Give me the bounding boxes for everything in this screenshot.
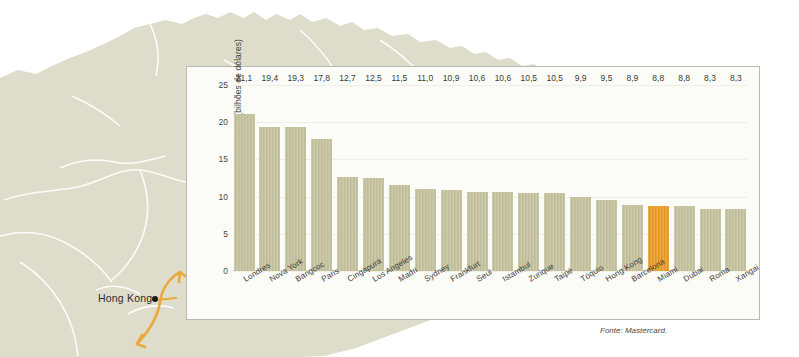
bar-slot: 10,5 bbox=[518, 85, 540, 271]
bar-slot: 11,0 bbox=[414, 85, 436, 271]
x-label-slot: Tóquio bbox=[570, 273, 592, 319]
bar-los-angeles[interactable]: 12,5 bbox=[363, 178, 384, 271]
x-label-slot: Frankfurt bbox=[440, 273, 462, 319]
bar-slot: 12,7 bbox=[337, 85, 359, 271]
bar-frankfurt[interactable]: 10,9 bbox=[441, 190, 462, 271]
plot-area: 25 20 15 10 5 0 21,119,419,317,812,712,5… bbox=[233, 85, 747, 271]
bar-value-label: 8,8 bbox=[678, 73, 690, 83]
bar-value-label: 17,8 bbox=[313, 73, 330, 83]
x-label-slot: Madri bbox=[388, 273, 410, 319]
bar-value-label: 11,0 bbox=[417, 73, 433, 83]
bar-bangcoc[interactable]: 19,3 bbox=[285, 127, 306, 271]
plot-wrapper: Gastos dos visitantes (bilhões de dólare… bbox=[187, 67, 761, 321]
bar-value-label: 10,6 bbox=[469, 73, 486, 83]
x-label-slot: Nova York bbox=[259, 273, 281, 319]
bar-slot: 8,8 bbox=[647, 85, 669, 271]
x-axis-labels: LondresNova YorkBangcocParisCingapuraLos… bbox=[233, 273, 747, 319]
bar-value-label: 8,8 bbox=[652, 73, 664, 83]
y-tick-0: 0 bbox=[223, 266, 228, 276]
bar-value-label: 8,9 bbox=[626, 73, 638, 83]
bar-value-label: 9,5 bbox=[601, 73, 613, 83]
bar-slot: 10,6 bbox=[492, 85, 514, 271]
bar-value-label: 21,1 bbox=[236, 73, 253, 83]
hong-kong-marker bbox=[152, 296, 158, 302]
bar-value-label: 12,5 bbox=[365, 73, 382, 83]
x-label-slot: Paris bbox=[311, 273, 333, 319]
x-label-slot: Barcelona bbox=[621, 273, 643, 319]
x-label-slot: Los Angeles bbox=[362, 273, 384, 319]
bar-slot: 12,5 bbox=[362, 85, 384, 271]
x-label-slot: Miami bbox=[647, 273, 669, 319]
bar-slot: 10,6 bbox=[466, 85, 488, 271]
bar-value-label: 10,6 bbox=[495, 73, 512, 83]
bar-cingapura[interactable]: 12,7 bbox=[337, 177, 358, 271]
bar-tóquio[interactable]: 9,9 bbox=[570, 197, 591, 271]
bar-dubai[interactable]: 8,8 bbox=[674, 206, 695, 271]
bar-paris[interactable]: 17,8 bbox=[311, 139, 332, 271]
bar-slot: 9,5 bbox=[595, 85, 617, 271]
x-label-slot: Hong Kong bbox=[595, 273, 617, 319]
bar-sydney[interactable]: 11,0 bbox=[415, 189, 436, 271]
bar-slot: 21,1 bbox=[233, 85, 255, 271]
bar-value-label: 10,9 bbox=[443, 73, 460, 83]
bar-value-label: 8,3 bbox=[730, 73, 742, 83]
x-label-slot: Sydney bbox=[414, 273, 436, 319]
bar-value-label: 19,3 bbox=[288, 73, 305, 83]
bar-slot: 8,3 bbox=[699, 85, 721, 271]
bar-slot: 8,9 bbox=[621, 85, 643, 271]
x-label-slot: Xangai bbox=[725, 273, 747, 319]
bar-value-label: 10,5 bbox=[521, 73, 538, 83]
bar-value-label: 8,3 bbox=[704, 73, 716, 83]
x-label-slot: Taipé bbox=[544, 273, 566, 319]
chart-panel: Gastos dos visitantes (bilhões de dólare… bbox=[186, 66, 760, 320]
bar-zurique[interactable]: 10,5 bbox=[518, 193, 539, 271]
bar-taipé[interactable]: 10,5 bbox=[544, 193, 565, 271]
x-label-slot: Dubai bbox=[673, 273, 695, 319]
bar-roma[interactable]: 8,3 bbox=[700, 209, 721, 271]
x-label-slot: Londres bbox=[233, 273, 255, 319]
y-tick-20: 20 bbox=[219, 117, 228, 127]
source-note: Fonte: Mastercard. bbox=[600, 326, 667, 335]
bar-value-label: 10,5 bbox=[546, 73, 563, 83]
bar-value-label: 19,4 bbox=[262, 73, 279, 83]
bar-slot: 9,9 bbox=[570, 85, 592, 271]
bar-value-label: 11,5 bbox=[391, 73, 407, 83]
bar-slot: 19,3 bbox=[285, 85, 307, 271]
bar-slot: 8,3 bbox=[725, 85, 747, 271]
y-tick-5: 5 bbox=[223, 229, 228, 239]
bar-series: 21,119,419,317,812,712,511,511,010,910,6… bbox=[233, 85, 747, 271]
bar-slot: 8,8 bbox=[673, 85, 695, 271]
bar-hong-kong[interactable]: 9,5 bbox=[596, 200, 617, 271]
bar-value-label: 9,9 bbox=[575, 73, 587, 83]
x-label-slot: Istambul bbox=[492, 273, 514, 319]
bar-slot: 17,8 bbox=[311, 85, 333, 271]
hong-kong-arrow bbox=[137, 272, 188, 347]
x-label-slot: Bangcoc bbox=[285, 273, 307, 319]
bar-nova-york[interactable]: 19,4 bbox=[259, 127, 280, 271]
bar-slot: 11,5 bbox=[388, 85, 410, 271]
bar-slot: 10,5 bbox=[544, 85, 566, 271]
bar-xangai[interactable]: 8,3 bbox=[725, 209, 746, 271]
y-tick-25: 25 bbox=[219, 80, 228, 90]
bar-istambul[interactable]: 10,6 bbox=[492, 192, 513, 271]
x-label-slot: Zurique bbox=[518, 273, 540, 319]
x-label-slot: Roma bbox=[699, 273, 721, 319]
bar-slot: 10,9 bbox=[440, 85, 462, 271]
bar-value-label: 12,7 bbox=[339, 73, 356, 83]
x-label-slot: Cingapura bbox=[337, 273, 359, 319]
x-label-slot: Seul bbox=[466, 273, 488, 319]
bar-slot: 19,4 bbox=[259, 85, 281, 271]
hong-kong-label: Hong Kong bbox=[98, 292, 152, 304]
bar-londres[interactable]: 21,1 bbox=[234, 114, 255, 271]
y-tick-15: 15 bbox=[219, 154, 228, 164]
y-tick-10: 10 bbox=[219, 192, 228, 202]
